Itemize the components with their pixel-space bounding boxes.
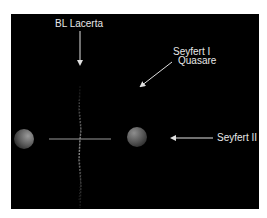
diagram-graphics [11, 14, 259, 209]
top-margin [0, 0, 267, 4]
label-bl-lacerta: BL Lacerta [55, 19, 103, 29]
arrow-seyfert-1-quasare [141, 62, 172, 86]
jet [79, 86, 81, 208]
agn-unification-diagram: BL Lacerta Seyfert I Quasare Seyfert II [11, 14, 259, 209]
right-torus-sphere [127, 127, 147, 147]
label-quasare: Quasare [178, 56, 216, 66]
label-seyfert-2: Seyfert II [217, 133, 257, 143]
left-torus-sphere [14, 129, 34, 149]
